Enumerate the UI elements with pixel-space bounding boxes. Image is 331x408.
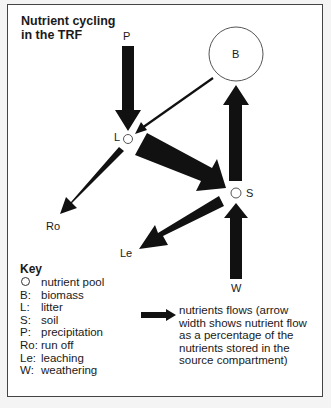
key-abbr: Le: bbox=[20, 352, 41, 365]
key-abbr: B: bbox=[20, 289, 41, 302]
key-item-litter: L: litter bbox=[20, 301, 104, 314]
flow-text-line: source compartment) bbox=[179, 354, 324, 367]
key-abbr: W: bbox=[20, 364, 41, 377]
key-desc: soil bbox=[41, 314, 58, 327]
flow-text-line: nutrients flows (arrow bbox=[179, 304, 324, 317]
key-desc: biomass bbox=[41, 289, 84, 302]
node-label-b: B bbox=[232, 48, 239, 60]
key-list: nutrient pool B: biomass L: litter S: so… bbox=[20, 276, 104, 377]
key-desc: leaching bbox=[41, 352, 84, 365]
flow-arrow-l-to-s bbox=[135, 133, 226, 191]
flow-arrow-s-to-le bbox=[139, 196, 224, 249]
flow-arrow-w-to-s bbox=[224, 203, 248, 279]
node-label-le: Le bbox=[120, 247, 132, 259]
key-item-leaching: Le: leaching bbox=[20, 352, 104, 365]
key-desc: weathering bbox=[41, 364, 97, 377]
key-desc: precipitation bbox=[41, 326, 103, 339]
circle-icon bbox=[21, 277, 30, 286]
flow-text-line: width shows nutrient flow bbox=[179, 317, 324, 330]
key-item-precipitation: P: precipitation bbox=[20, 326, 104, 339]
flow-arrow-p-to-l bbox=[115, 46, 141, 131]
flow-arrow-b-to-l bbox=[135, 78, 213, 134]
key-abbr: Ro: bbox=[20, 339, 41, 352]
node-label-ro: Ro bbox=[46, 220, 60, 232]
key-title: Key bbox=[20, 262, 42, 276]
node-label-s: S bbox=[246, 187, 253, 199]
key-desc: litter bbox=[41, 301, 63, 314]
key-item-run-off: Ro: run off bbox=[20, 339, 104, 352]
flow-text-line: nutrients stored in the bbox=[179, 342, 324, 355]
key-abbr: S: bbox=[20, 314, 41, 327]
flow-arrow-s-to-b bbox=[223, 85, 249, 181]
flow-text-line: as a percentage of the bbox=[179, 329, 324, 342]
litter-pool-circle bbox=[124, 135, 133, 144]
soil-pool-circle bbox=[231, 188, 241, 198]
key-desc: nutrient pool bbox=[41, 276, 104, 289]
key-abbr: P: bbox=[20, 326, 41, 339]
node-label-w: W bbox=[231, 282, 242, 294]
key-item-nutrient-pool: nutrient pool bbox=[20, 276, 104, 289]
key-abbr: L: bbox=[20, 301, 41, 314]
key-item-soil: S: soil bbox=[20, 314, 104, 327]
flow-arrow-l-to-ro bbox=[60, 147, 124, 214]
key-flow-description: nutrients flows (arrow width shows nutri… bbox=[179, 304, 324, 367]
key-desc: run off bbox=[41, 339, 73, 352]
node-label-p: P bbox=[123, 30, 130, 42]
key-item-biomass: B: biomass bbox=[20, 289, 104, 302]
key-item-weathering: W: weathering bbox=[20, 364, 104, 377]
key-flow-arrow-icon bbox=[141, 309, 176, 321]
node-label-l: L bbox=[114, 131, 120, 143]
